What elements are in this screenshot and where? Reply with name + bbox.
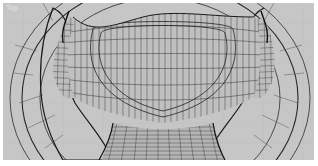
wireframe-canvas[interactable] [3, 3, 314, 160]
lower-spoke-mesh [98, 118, 228, 160]
viewport-label[interactable]: Top [6, 4, 18, 11]
hub-mesh [63, 3, 268, 133]
3d-viewport[interactable]: Top [3, 3, 314, 160]
